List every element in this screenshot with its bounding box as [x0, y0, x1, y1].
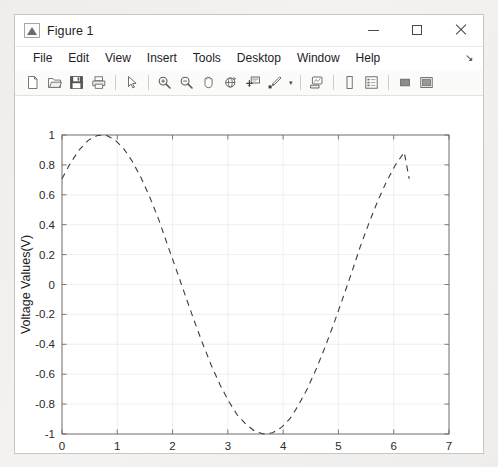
maximize-icon: [412, 25, 422, 35]
show-plot-tools-button[interactable]: [416, 72, 437, 93]
zoom-in-icon: [157, 75, 172, 90]
plot-gridlines: [62, 135, 449, 434]
minimize-icon: [368, 30, 379, 31]
brush-dropdown-caret[interactable]: ▾: [286, 72, 295, 93]
ytick-label: -1: [45, 428, 55, 440]
ytick-label: -0.6: [35, 368, 55, 380]
minimize-button[interactable]: [351, 15, 395, 45]
window-title: Figure 1: [47, 24, 94, 38]
rotate-3d-icon: [223, 75, 238, 90]
close-icon: [455, 24, 467, 36]
data-cursor-button[interactable]: [242, 72, 263, 93]
y-axis-label: Voltage Values(V): [19, 235, 33, 334]
hide-plot-tools-icon: [398, 75, 412, 90]
toolbar-separator: [148, 75, 149, 90]
menu-bar: File Edit View Insert Tools Desktop Wind…: [15, 47, 483, 70]
show-plot-tools-icon: [419, 75, 434, 90]
open-file-button[interactable]: [44, 72, 65, 93]
pointer-select-button[interactable]: [121, 72, 142, 93]
zoom-out-icon: [179, 75, 194, 90]
hide-plot-tools-button[interactable]: [394, 72, 415, 93]
figure-window: Figure 1 File Edit View Insert Tools Des…: [14, 14, 484, 454]
ytick-label: -0.2: [35, 308, 55, 320]
link-plot-icon: [309, 75, 325, 90]
menu-item-help[interactable]: Help: [348, 47, 389, 70]
menu-item-insert[interactable]: Insert: [139, 47, 185, 70]
menu-item-desktop[interactable]: Desktop: [229, 47, 289, 70]
data-cursor-icon: [245, 75, 261, 90]
ytick-label: -0.8: [35, 398, 55, 410]
maximize-button[interactable]: [395, 15, 439, 45]
menu-item-view[interactable]: View: [97, 47, 139, 70]
voltage-vs-time-plot[interactable]: 01234567-1-0.8-0.6-0.4-0.200.20.40.60.81…: [15, 96, 483, 453]
matlab-figure-icon: [24, 23, 40, 38]
pointer-select-icon: [125, 75, 139, 90]
xtick-label: 5: [335, 440, 341, 452]
insert-colorbar-icon: [343, 75, 356, 90]
toolbar: ▾: [15, 70, 483, 96]
menu-item-window[interactable]: Window: [289, 47, 348, 70]
menu-item-file[interactable]: File: [25, 47, 60, 70]
new-figure-icon: [25, 75, 40, 90]
save-figure-button[interactable]: [66, 72, 87, 93]
link-plot-button[interactable]: [306, 72, 327, 93]
insert-colorbar-button[interactable]: [339, 72, 360, 93]
rotate-3d-button[interactable]: [220, 72, 241, 93]
xtick-label: 4: [280, 440, 287, 452]
open-file-icon: [47, 75, 63, 90]
ytick-label: -0.4: [35, 338, 55, 350]
menu-overflow-arrow-icon[interactable]: ↘: [465, 53, 475, 63]
title-bar: Figure 1: [15, 15, 483, 47]
toolbar-separator: [115, 75, 116, 90]
ytick-label: 0.8: [39, 159, 55, 171]
pan-hand-icon: [201, 75, 216, 90]
insert-legend-icon: [364, 75, 379, 90]
ytick-label: 0.2: [39, 249, 55, 261]
xtick-label: 7: [446, 440, 452, 452]
menu-item-tools[interactable]: Tools: [185, 47, 229, 70]
toolbar-separator: [333, 75, 334, 90]
close-button[interactable]: [439, 15, 483, 45]
zoom-out-button[interactable]: [176, 72, 197, 93]
save-figure-icon: [69, 75, 84, 90]
xtick-label: 3: [225, 440, 231, 452]
pan-button[interactable]: [198, 72, 219, 93]
print-figure-button[interactable]: [88, 72, 109, 93]
ytick-label: 1: [49, 129, 55, 141]
menu-item-edit[interactable]: Edit: [60, 47, 97, 70]
window-controls: [351, 15, 483, 45]
print-figure-icon: [91, 75, 107, 90]
brush-data-icon: [267, 75, 283, 90]
xtick-label: 1: [114, 440, 120, 452]
toolbar-separator: [300, 75, 301, 90]
xtick-label: 2: [169, 440, 175, 452]
xtick-label: 6: [391, 440, 397, 452]
zoom-in-button[interactable]: [154, 72, 175, 93]
new-figure-button[interactable]: [22, 72, 43, 93]
ytick-label: 0.6: [39, 189, 55, 201]
insert-legend-button[interactable]: [361, 72, 382, 93]
toolbar-separator: [388, 75, 389, 90]
xtick-label: 0: [59, 440, 65, 452]
figure-canvas[interactable]: 01234567-1-0.8-0.6-0.4-0.200.20.40.60.81…: [15, 96, 483, 453]
brush-data-button[interactable]: [264, 72, 285, 93]
ytick-label: 0.4: [39, 219, 56, 231]
ytick-label: 0: [49, 279, 55, 291]
